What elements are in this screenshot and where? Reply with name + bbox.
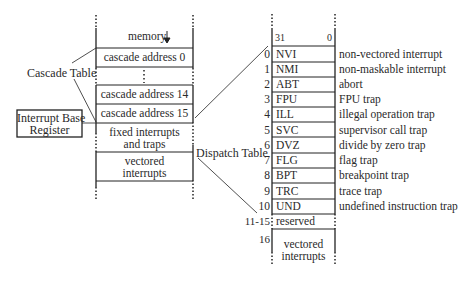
entry-code: FLG [276,155,298,167]
memory-label: memory [128,31,166,43]
entry-index: 1 [258,64,270,76]
bit-31-label: 31 [275,33,285,43]
entry-description: breakpoint trap [339,170,409,182]
entry-description: illegal operation trap [339,109,435,121]
entry-description: trace trap [339,186,382,198]
entry-index: 9 [258,186,270,198]
entry-index: 5 [258,125,270,137]
reserved-index: 11-15 [244,216,270,227]
dispatch-vectored: vectored interrupts [272,238,335,262]
entry-description: undefined instruction trap [339,201,458,213]
entry-description: non-maskable interrupt [339,64,446,76]
vectored-index: 16 [256,234,270,245]
entry-index: 2 [258,79,270,91]
cascade-row-vectored: vectored interrupts [96,155,193,179]
reserved-label: reserved [276,216,315,228]
entry-code: ABT [276,79,299,91]
interrupt-base-register-label: Interrupt Base Register [17,112,82,136]
dispatch-vectored-line-2: interrupts [272,250,335,262]
entry-index: 6 [258,140,270,152]
vectored-line-2: interrupts [96,167,193,179]
entry-code: NMI [276,64,298,76]
entry-code: UND [276,201,301,213]
entry-index: 3 [258,94,270,106]
fixed-line-1: fixed interrupts [96,126,193,138]
cascade-table-label: Cascade Table [27,67,96,79]
entry-description: supervisor call trap [339,125,427,137]
entry-code: TRC [276,186,298,198]
entry-index: 10 [254,201,270,213]
cascade-row-15: cascade address 15 [96,108,193,120]
ibr-line-2: Register [17,124,82,136]
bit-0-label: 0 [327,33,332,43]
entry-description: flag trap [339,155,378,167]
entry-description: non-vectored interrupt [339,49,442,61]
entry-index: 4 [258,109,270,121]
cascade-row-0: cascade address 0 [96,52,193,64]
entry-code: BPT [276,170,297,182]
entry-index: 8 [258,170,270,182]
entry-code: ILL [276,109,294,121]
entry-index: 7 [258,155,270,167]
vectored-line-1: vectored [96,155,193,167]
fixed-line-2: and traps [96,138,193,150]
entry-description: divide by zero trap [339,140,426,152]
entry-index: 0 [258,49,270,61]
entry-code: FPU [276,94,297,106]
entry-code: DVZ [276,140,300,152]
cascade-row-14: cascade address 14 [96,89,193,101]
entry-code: SVC [276,125,298,137]
dispatch-vectored-line-1: vectored [272,238,335,250]
entry-description: abort [339,79,363,91]
entry-code: NVI [276,49,296,61]
entry-description: FPU trap [339,94,381,106]
cascade-row-fixed: fixed interrupts and traps [96,126,193,150]
